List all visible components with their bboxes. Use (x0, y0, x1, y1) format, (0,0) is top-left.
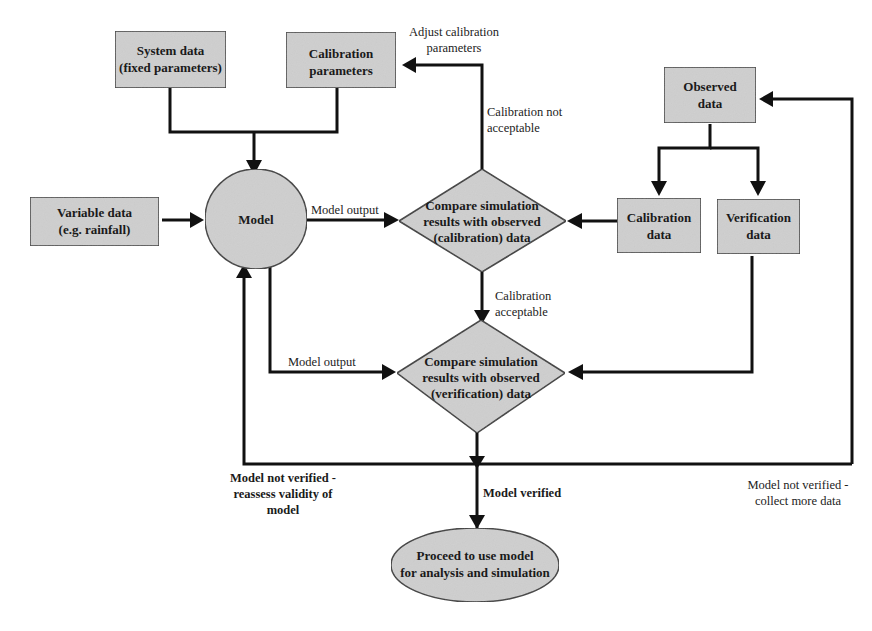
node-calibration-parameters-line2: parameters (309, 63, 373, 78)
node-variable-data-line1: Variable data (57, 205, 132, 220)
node-observed-data-line1: Observed (683, 79, 737, 94)
node-proceed[interactable]: Proceed to use model for analysis and si… (391, 528, 559, 602)
edge-not-verified-collect-loop (772, 99, 852, 464)
node-compare-verification-line1: Compare simulation (424, 354, 538, 369)
node-calibration-parameters[interactable]: Calibration parameters (286, 32, 396, 88)
edge-system-calibration-join (170, 88, 337, 132)
arrow-head-into-observed-data (759, 91, 773, 107)
label-model-output-1: Model output (311, 203, 379, 217)
arrow-head-into-proceed (469, 515, 485, 529)
node-system-data-line2: (fixed parameters) (119, 60, 222, 75)
arrow-head-into-calibration-data (651, 181, 667, 196)
arrow-head-into-calibration-parameters (402, 57, 416, 73)
node-compare-verification-line2: results with observed (422, 370, 540, 385)
arrow-head-into-compare-verification-right (568, 364, 583, 380)
node-verification-data-line2: data (746, 227, 771, 242)
node-model-label: Model (238, 212, 274, 227)
edge-calibration-not-acceptable (415, 65, 482, 170)
node-verification-data[interactable]: Verification data (717, 199, 800, 254)
label-not-verified-collect-line2: collect more data (755, 494, 842, 508)
arrow-head-into-model-left (190, 212, 204, 228)
edge-verification-data-to-compare (581, 256, 752, 372)
node-compare-calibration-line1: Compare simulation (425, 198, 539, 213)
edge-observed-to-verification-data (710, 148, 758, 183)
label-not-verified-reassess-line1: Model not verified - (230, 471, 336, 485)
node-compare-calibration-line2: results with observed (423, 214, 541, 229)
node-calibration-data-line1: Calibration (627, 210, 692, 225)
arrow-head-into-verification-data (750, 181, 766, 196)
node-observed-data-line2: data (698, 96, 723, 111)
node-verification-data-line1: Verification (726, 210, 792, 225)
flowchart-canvas: System data (fixed parameters) Calibrati… (0, 0, 872, 631)
label-not-verified-reassess-line3: model (267, 503, 300, 517)
label-not-verified-reassess-line2: reassess validity of (233, 487, 333, 501)
node-proceed-line1: Proceed to use model (416, 548, 533, 563)
node-calibration-data-line2: data (647, 227, 672, 242)
label-adjust-calibration-line2: parameters (427, 41, 482, 55)
node-calibration-data[interactable]: Calibration data (617, 198, 701, 253)
label-model-verified: Model verified (483, 486, 561, 500)
edge-observed-to-calibration-data (659, 124, 710, 183)
label-model-output-2: Model output (288, 355, 356, 369)
label-calibration-not-acceptable-line2: acceptable (487, 121, 540, 135)
node-compare-verification[interactable]: Compare simulation results with observed… (397, 320, 565, 433)
node-model[interactable]: Model (205, 169, 307, 269)
node-compare-calibration-line3: (calibration) data (433, 230, 531, 245)
label-calibration-acceptable-line1: Calibration (495, 289, 552, 303)
node-variable-data[interactable]: Variable data (e.g. rainfall) (30, 197, 159, 246)
node-variable-data-line2: (e.g. rainfall) (59, 222, 131, 237)
arrow-head-into-compare-calibration-right (567, 213, 582, 229)
node-observed-data[interactable]: Observed data (664, 67, 756, 123)
arrow-head-into-compare-calibration (384, 212, 399, 228)
label-calibration-not-acceptable-line1: Calibration not (487, 105, 563, 119)
node-proceed-line2: for analysis and simulation (400, 565, 550, 580)
label-not-verified-collect-line1: Model not verified - (747, 478, 848, 492)
node-system-data[interactable]: System data (fixed parameters) (115, 31, 226, 88)
node-calibration-parameters-line1: Calibration (309, 46, 374, 61)
node-compare-calibration[interactable]: Compare simulation results with observed… (399, 169, 566, 272)
arrow-head-into-compare-verification-left (382, 364, 396, 380)
node-compare-verification-line3: (verification) data (431, 386, 532, 401)
node-system-data-line1: System data (137, 43, 205, 58)
label-calibration-acceptable-line2: acceptable (495, 305, 548, 319)
label-adjust-calibration-line1: Adjust calibration (409, 25, 500, 39)
